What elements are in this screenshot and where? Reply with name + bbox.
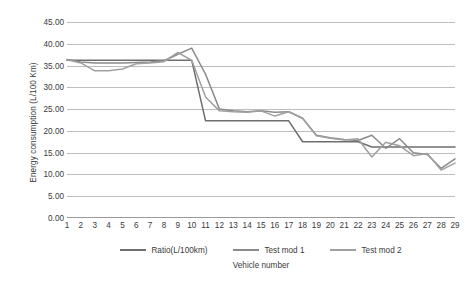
x-axis-title: Vehicle number bbox=[67, 261, 455, 270]
y-tick-label: 35.00 bbox=[26, 61, 64, 70]
series-lines bbox=[67, 22, 455, 218]
series-line bbox=[67, 48, 455, 168]
energy-consumption-line-chart: Energy consumption (L/100 Km) 0.005.0010… bbox=[0, 0, 473, 287]
y-tick-label: 20.00 bbox=[26, 126, 64, 135]
y-tick-label: 40.00 bbox=[26, 39, 64, 48]
x-axis-tick-labels: 1234567891011121314151617181920212223242… bbox=[67, 221, 455, 235]
series-line bbox=[67, 52, 455, 170]
y-tick-label: 45.00 bbox=[26, 18, 64, 27]
y-axis-tick-labels: 0.005.0010.0015.0020.0025.0030.0035.0040… bbox=[26, 0, 64, 287]
y-tick-label: 30.00 bbox=[26, 83, 64, 92]
legend-line-swatch bbox=[233, 249, 259, 251]
chart-legend: Ratio(L/100km)Test mod 1Test mod 2 bbox=[67, 243, 455, 257]
y-tick-label: 5.00 bbox=[26, 192, 64, 201]
legend-label: Test mod 2 bbox=[361, 246, 401, 255]
legend-line-swatch bbox=[330, 249, 356, 251]
series-line bbox=[67, 60, 455, 147]
legend-item[interactable]: Test mod 2 bbox=[330, 246, 401, 255]
x-tick-label: 29 bbox=[445, 221, 465, 230]
legend-label: Ratio(L/100km) bbox=[151, 246, 207, 255]
y-tick-label: 15.00 bbox=[26, 148, 64, 157]
y-tick-label: 10.00 bbox=[26, 170, 64, 179]
legend-item[interactable]: Test mod 1 bbox=[233, 246, 304, 255]
legend-label: Test mod 1 bbox=[264, 246, 304, 255]
legend-line-swatch bbox=[120, 249, 146, 251]
plot-area bbox=[67, 22, 455, 218]
y-tick-label: 25.00 bbox=[26, 105, 64, 114]
legend-item[interactable]: Ratio(L/100km) bbox=[120, 246, 207, 255]
